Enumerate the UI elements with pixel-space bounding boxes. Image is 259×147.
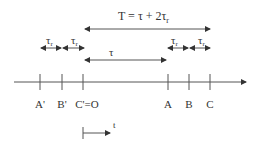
tau-r-label-right-1: τr [171,34,178,48]
timing-diagram: T = τ + 2τr τr τr τr τr τ A' B' C'=O A B… [0,0,259,147]
total-period-label: T = τ + 2τr [118,9,169,25]
point-label-a: A [164,98,172,110]
point-label-a-prime: A' [35,98,45,110]
tau-label: τ [109,46,114,58]
tau-r-label-right-2: τr [198,34,205,48]
point-label-c-prime-origin: C'=O [75,98,99,110]
time-label: t [113,120,116,130]
tau-r-label-left-1: τr [46,34,53,48]
point-label-b: B [185,98,192,110]
tau-r-label-left-2: τr [71,34,78,48]
point-label-c: C [206,98,213,110]
point-label-b-prime: B' [57,98,66,110]
